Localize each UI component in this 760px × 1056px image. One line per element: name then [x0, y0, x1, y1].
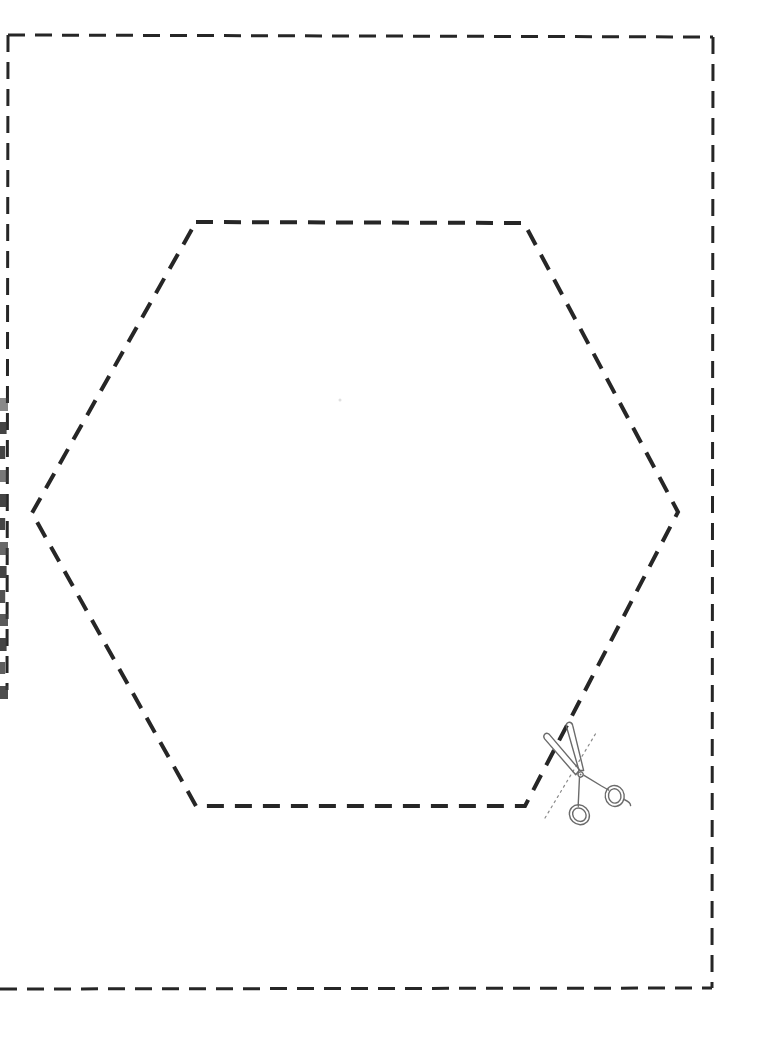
paper-speck: [339, 399, 342, 402]
scan-artifact-blob: [0, 398, 8, 411]
scan-artifact-blob: [0, 470, 8, 482]
scan-artifact-blob: [0, 638, 7, 651]
worksheet-page: .dash-border { fill: none; stroke: #2626…: [0, 0, 760, 1056]
scan-artifact-blob: [0, 590, 5, 603]
scan-artifact-blob: [0, 686, 8, 699]
scan-artifact-blob: [0, 566, 7, 578]
page-background: [0, 0, 760, 1056]
scan-artifact-blob: [0, 542, 8, 555]
paper-specks: [339, 399, 342, 402]
worksheet-canvas: .dash-border { fill: none; stroke: #2626…: [0, 0, 760, 1056]
scan-artifact-blob: [0, 422, 7, 434]
scan-artifact-blob: [0, 614, 8, 626]
scan-artifact-blob: [0, 494, 7, 507]
scan-artifact-blob: [0, 662, 5, 674]
scan-artifact-blob: [0, 518, 5, 530]
scan-artifact-blob: [0, 446, 5, 459]
